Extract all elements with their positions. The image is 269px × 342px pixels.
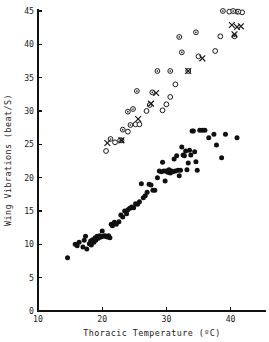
data-point-dotted-center: [157, 70, 159, 72]
data-point-filled: [145, 190, 150, 195]
data-point-open: [173, 82, 178, 87]
y-tick-label: 5: [29, 273, 34, 283]
data-point-dotted-center: [222, 10, 224, 12]
data-point-filled: [116, 219, 121, 224]
y-axis-title: Wing Vibrations (beat/S): [3, 94, 13, 226]
y-tick-label: 0: [29, 306, 34, 316]
data-point-filled: [107, 235, 112, 240]
data-point-open: [160, 108, 165, 113]
y-tick-label: 15: [24, 206, 34, 216]
data-point-filled: [191, 128, 196, 133]
data-point-dotted-center: [181, 51, 183, 53]
x-axis-title: Thoracic Temperature (ºC): [83, 328, 220, 338]
x-tick-label: 30: [161, 314, 171, 324]
data-point-open: [218, 34, 223, 39]
data-point-filled: [83, 234, 88, 239]
data-point-open: [113, 140, 118, 145]
data-point-filled: [139, 181, 144, 186]
data-point-filled: [186, 160, 191, 165]
data-point-filled: [177, 173, 182, 178]
data-point-filled: [184, 167, 189, 172]
data-point-open: [104, 149, 109, 154]
y-tick-label: 20: [24, 173, 34, 183]
data-point-filled: [84, 246, 89, 251]
data-point-dotted-center: [232, 10, 234, 12]
data-point-dotted-center: [169, 70, 171, 72]
data-point-dotted-center: [178, 36, 180, 38]
data-point-open: [168, 95, 173, 100]
data-point-filled: [65, 255, 70, 260]
data-point-filled: [223, 132, 228, 137]
data-point-dotted-center: [132, 108, 134, 110]
data-point-filled: [100, 228, 105, 233]
data-point-dotted-center: [151, 91, 153, 93]
data-point-filled: [137, 199, 142, 204]
data-point-filled: [211, 132, 216, 137]
y-tick-label: 25: [24, 139, 34, 149]
data-point-filled: [195, 168, 200, 173]
data-point-open: [125, 129, 130, 134]
x-tick-label: 10: [33, 314, 43, 324]
data-point-filled: [219, 155, 224, 160]
data-point-filled: [235, 135, 240, 140]
data-point-filled: [214, 142, 219, 147]
data-point-dotted-center: [237, 11, 239, 13]
plot-canvas: 10203040 051015202530354045 Thoracic Tem…: [0, 0, 269, 342]
data-point-filled: [182, 153, 187, 158]
data-point-open: [144, 109, 149, 114]
data-point-open: [137, 122, 142, 127]
data-point-dotted-center: [122, 129, 124, 131]
data-point-filled: [120, 214, 125, 219]
data-point-filled: [179, 144, 184, 149]
data-point-dotted-center: [127, 111, 129, 113]
data-point-filled: [187, 148, 192, 153]
x-tick-label: 40: [226, 314, 236, 324]
y-tick-label: 35: [24, 73, 34, 83]
x-tick-label: 20: [97, 314, 107, 324]
data-point-filled: [192, 149, 197, 154]
data-point-dotted-center: [195, 31, 197, 33]
data-point-dotted-center: [136, 90, 138, 92]
data-point-filled: [174, 153, 179, 158]
data-point-open: [164, 102, 169, 107]
data-point-filled: [152, 188, 157, 193]
data-point-filled: [160, 160, 165, 165]
data-point-open: [213, 49, 218, 54]
data-point-filled: [163, 178, 168, 183]
scatter-plot-figure: 10203040 051015202530354045 Thoracic Tem…: [0, 0, 269, 342]
data-point-filled: [77, 240, 82, 245]
y-tick-label: 30: [24, 106, 34, 116]
data-point-filled: [155, 175, 160, 180]
data-point-filled: [202, 128, 207, 133]
plot-background: [0, 0, 269, 342]
y-tick-label: 10: [24, 239, 34, 249]
data-point-filled: [178, 168, 183, 173]
data-point-dotted-center: [130, 124, 132, 126]
y-tick-label: 45: [24, 6, 34, 16]
data-point-dotted-center: [110, 138, 112, 140]
data-point-filled: [206, 135, 211, 140]
data-point-filled: [148, 182, 153, 187]
data-point-filled: [188, 152, 193, 157]
data-point-filled: [193, 159, 198, 164]
y-tick-label: 40: [24, 39, 34, 49]
